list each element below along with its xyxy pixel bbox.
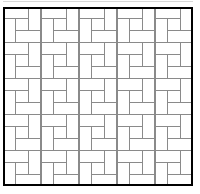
tile-top <box>41 43 66 55</box>
tile-bottom <box>130 102 155 114</box>
tile-left <box>155 55 168 79</box>
tile-right <box>104 150 117 174</box>
tile-top <box>155 43 180 55</box>
tile-top <box>117 150 142 162</box>
tile-bottom <box>130 67 155 79</box>
tile-center <box>168 91 181 103</box>
tile-center <box>92 162 105 174</box>
tile-bottom <box>54 31 79 43</box>
tile-top <box>155 79 180 91</box>
tile-right <box>66 150 79 174</box>
tile-center <box>168 55 181 67</box>
tile-right <box>66 79 79 103</box>
tile-bottom <box>54 102 79 114</box>
tile-center <box>168 126 181 138</box>
tile-left <box>41 126 54 150</box>
tile-layer <box>3 7 193 186</box>
tile-right <box>142 7 155 31</box>
tile-center <box>54 126 67 138</box>
tile-top <box>155 150 180 162</box>
tile-left <box>117 162 130 186</box>
tile-bottom <box>92 31 117 43</box>
tile-center <box>130 55 143 67</box>
tile-left <box>117 19 130 43</box>
tile-left <box>155 162 168 186</box>
tile-left <box>79 55 92 79</box>
tile-right <box>28 43 41 67</box>
tile-center <box>16 91 29 103</box>
tile-bottom <box>54 138 79 150</box>
tile-left <box>117 55 130 79</box>
tile-center <box>92 19 105 31</box>
tile-right <box>66 7 79 31</box>
tile-bottom <box>168 67 193 79</box>
tile-right <box>142 114 155 138</box>
tile-center <box>16 55 29 67</box>
tile-top <box>3 114 28 126</box>
tile-left <box>155 126 168 150</box>
tile-right <box>142 150 155 174</box>
tile-right <box>28 7 41 31</box>
tile-left <box>117 126 130 150</box>
figure-container <box>0 0 200 194</box>
tile-right <box>104 79 117 103</box>
tile-top <box>117 43 142 55</box>
tile-center <box>130 126 143 138</box>
tile-center <box>92 55 105 67</box>
tile-left <box>41 19 54 43</box>
tile-bottom <box>168 31 193 43</box>
tile-top <box>79 43 104 55</box>
tile-center <box>168 19 181 31</box>
tile-center <box>16 126 29 138</box>
tile-center <box>92 126 105 138</box>
tile-bottom <box>130 31 155 43</box>
tile-left <box>41 162 54 186</box>
tile-center <box>54 162 67 174</box>
tile-right <box>28 150 41 174</box>
tile-bottom <box>92 102 117 114</box>
tile-left <box>79 19 92 43</box>
tile-center <box>54 55 67 67</box>
tile-left <box>41 91 54 115</box>
tile-right <box>66 43 79 67</box>
tile-right <box>142 79 155 103</box>
tile-center <box>16 19 29 31</box>
tile-center <box>16 162 29 174</box>
tile-left <box>117 91 130 115</box>
tile-bottom <box>16 102 41 114</box>
tile-bottom <box>16 138 41 150</box>
tile-top <box>3 79 28 91</box>
tile-top <box>3 43 28 55</box>
tile-left <box>79 126 92 150</box>
tile-right <box>28 114 41 138</box>
tile-left <box>41 55 54 79</box>
tile-top <box>117 79 142 91</box>
tile-right <box>104 43 117 67</box>
tile-bottom <box>16 31 41 43</box>
tile-center <box>54 91 67 103</box>
tile-bottom <box>16 67 41 79</box>
tile-left <box>79 91 92 115</box>
pinwheel-tiling-svg <box>0 0 200 194</box>
tiling-root <box>3 7 193 186</box>
tile-bottom <box>92 67 117 79</box>
tile-right <box>66 114 79 138</box>
tile-bottom <box>92 138 117 150</box>
tile-top <box>41 114 66 126</box>
tile-bottom <box>130 138 155 150</box>
tile-left <box>155 19 168 43</box>
tile-bottom <box>54 67 79 79</box>
tile-top <box>79 114 104 126</box>
tile-top <box>155 114 180 126</box>
tile-right <box>142 43 155 67</box>
tile-center <box>130 91 143 103</box>
tile-center <box>54 19 67 31</box>
tile-left <box>155 91 168 115</box>
tile-left <box>79 162 92 186</box>
tile-top <box>79 150 104 162</box>
tile-right <box>104 7 117 31</box>
tile-center <box>168 162 181 174</box>
tile-top <box>3 150 28 162</box>
tile-top <box>41 79 66 91</box>
tile-bottom <box>168 138 193 150</box>
